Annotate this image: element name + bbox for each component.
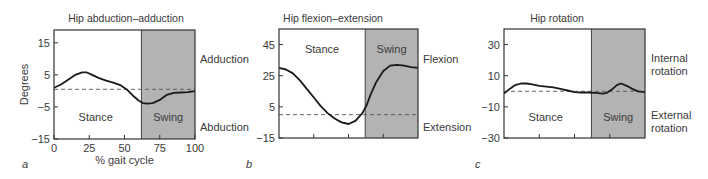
- stance-label: Stance: [305, 43, 339, 55]
- right-label-bottom: Abduction: [200, 121, 249, 133]
- right-label-bottom: rotation: [651, 122, 688, 134]
- right-label-bottom: External: [651, 109, 691, 121]
- right-label-bottom: Extension: [423, 121, 471, 133]
- right-label-top: rotation: [651, 65, 688, 77]
- right-label-top: Adduction: [200, 53, 249, 65]
- stance-label: Stance: [79, 111, 113, 123]
- chart-panel-c: −30−101030Hip rotationStanceSwingInterna…: [475, 12, 691, 170]
- y-tick-label: 10: [488, 70, 500, 82]
- panel-label: b: [246, 158, 252, 170]
- y-tick-label: 15: [38, 37, 50, 49]
- chart-panel-b: −1552545Hip flexion–extensionStanceSwing…: [246, 12, 471, 170]
- right-label-top: Flexion: [423, 53, 458, 65]
- stance-label: Stance: [529, 111, 563, 123]
- x-tick-label: 100: [186, 142, 204, 154]
- swing-label: Swing: [153, 111, 183, 123]
- y-tick-label: −15: [256, 132, 275, 144]
- y-tick-label: 5: [269, 101, 275, 113]
- swing-label: Swing: [603, 111, 633, 123]
- y-tick-label: 5: [44, 69, 50, 81]
- swing-label: Swing: [377, 43, 407, 55]
- y-tick-label: 30: [488, 39, 500, 51]
- x-tick-label: 50: [118, 142, 130, 154]
- y-tick-label: 25: [263, 70, 275, 82]
- gait-charts: −15−55150255075100Hip abduction–adductio…: [0, 0, 708, 179]
- chart-title: Hip rotation: [530, 12, 584, 24]
- chart-title: Hip abduction–adduction: [68, 12, 184, 24]
- y-tick-label: 45: [263, 39, 275, 51]
- x-tick-label: 25: [83, 142, 95, 154]
- y-axis-label: Degrees: [18, 63, 30, 105]
- chart-panel-a: −15−55150255075100Hip abduction–adductio…: [18, 12, 249, 170]
- panel-label: c: [475, 158, 481, 170]
- panel-label: a: [22, 158, 28, 170]
- y-tick-label: −15: [31, 133, 50, 145]
- right-label-top: Internal: [651, 52, 688, 64]
- x-axis-label: % gait cycle: [95, 154, 154, 166]
- y-tick-label: −10: [481, 101, 500, 113]
- chart-title: Hip flexion–extension: [283, 12, 383, 24]
- x-tick-label: 75: [154, 142, 166, 154]
- y-tick-label: −30: [481, 132, 500, 144]
- x-tick-label: 0: [51, 142, 57, 154]
- y-tick-label: −5: [37, 101, 50, 113]
